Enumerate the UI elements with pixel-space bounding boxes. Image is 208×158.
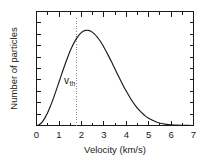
x-tick-label: 6: [169, 129, 174, 140]
v-thermal-label-subscript: th: [70, 80, 76, 87]
x-tick-label: 5: [146, 129, 151, 140]
maxwell-boltzmann-distribution-plot: v th 0 1 2 3 4 5 6 7 Velocity (km/s) Num…: [0, 0, 208, 158]
x-tick-label: 1: [56, 129, 61, 140]
x-tick-label: 4: [124, 129, 129, 140]
v-thermal-label-main: v: [64, 75, 69, 86]
chart-figure: v th 0 1 2 3 4 5 6 7 Velocity (km/s) Num…: [0, 0, 208, 158]
x-tick-label: 7: [191, 129, 196, 140]
x-axis-title: Velocity (km/s): [84, 144, 146, 155]
x-tick-label: 0: [34, 129, 39, 140]
y-axis-title: Number of particles: [8, 27, 19, 110]
x-tick-label: 3: [101, 129, 106, 140]
x-tick-label: 2: [79, 129, 84, 140]
